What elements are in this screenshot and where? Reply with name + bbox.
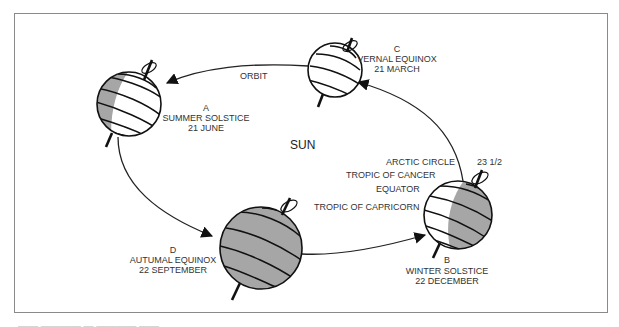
equator-label: EQUATOR <box>376 184 420 194</box>
sun-label: SUN <box>290 138 315 152</box>
position-date: 22 SEPTEMBER <box>139 265 208 275</box>
position-letter: C <box>394 44 401 54</box>
position-name: VERNAL EQUINOX <box>357 54 437 64</box>
position-date: 21 JUNE <box>188 123 224 133</box>
figure-caption-cropped: ▬▬ ▬▬▬▬ ▬ ▬▬▬▬ ▬▬ ▬▬▬▬ <box>18 321 188 327</box>
position-name: AUTUMAL EQUINOX <box>130 255 217 265</box>
position-letter: D <box>170 245 177 255</box>
position-date: 22 DECEMBER <box>415 276 479 286</box>
position-letter: B <box>444 255 450 265</box>
axial-tilt-label: 23 1/2 <box>477 157 502 167</box>
position-letter: A <box>203 103 209 113</box>
arctic-circle-label: ARCTIC CIRCLE <box>386 157 455 167</box>
position-date: 21 MARCH <box>374 64 420 74</box>
position-name: WINTER SOLSTICE <box>406 266 489 276</box>
tropic-of-cancer-label: TROPIC OF CANCER <box>346 170 436 180</box>
position-name: SUMMER SOLSTICE <box>162 113 249 123</box>
tropic-of-capricorn-label: TROPIC OF CAPRICORN <box>314 202 420 212</box>
orbit-label: ORBIT <box>240 71 268 81</box>
orbit-seasons-diagram: ORBIT SUN A SUMMER SOLSTICE 21 JUNE C VE… <box>0 0 619 327</box>
